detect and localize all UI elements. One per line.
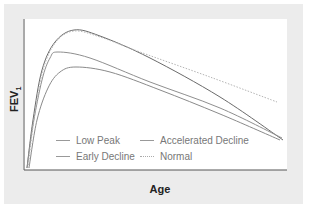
legend-swatch-solid [56, 156, 70, 157]
legend-item-early-decline: Early Decline [56, 150, 140, 163]
legend-label: Low Peak [76, 135, 120, 146]
legend-swatch-solid [140, 140, 154, 141]
legend-label: Early Decline [76, 151, 135, 162]
chart-svg [0, 0, 311, 209]
legend-label: Normal [160, 151, 192, 162]
legend-label: Accelerated Decline [160, 135, 249, 146]
figure-frame: FEV1 Age Low Peak Accelerated Decline Ea… [0, 0, 311, 209]
legend-swatch-solid [56, 140, 70, 141]
legend-swatch-dotted [140, 156, 154, 157]
y-axis-label: FEV1 [7, 88, 21, 112]
legend: Low Peak Accelerated Decline Early Decli… [56, 134, 266, 163]
legend-item-accelerated-decline: Accelerated Decline [140, 134, 266, 147]
legend-item-normal: Normal [140, 150, 266, 163]
legend-item-low-peak: Low Peak [56, 134, 140, 147]
x-axis-label: Age [140, 183, 180, 195]
